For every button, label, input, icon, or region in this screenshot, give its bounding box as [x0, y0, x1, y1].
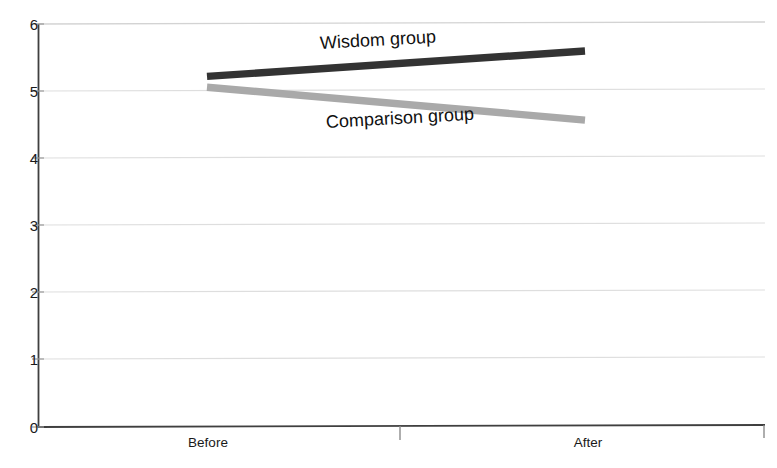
- y-axis-label-5: 5: [14, 84, 38, 99]
- x-axis-line: [38, 425, 765, 427]
- x-axis-label-before: Before: [173, 436, 243, 450]
- y-axis-label-2: 2: [14, 285, 38, 300]
- chart-title-cropped: [196, 0, 596, 2]
- y-axis-label-0: 0: [14, 420, 38, 435]
- line-chart: 6 5 4 3 2 1 0 Before After Wisdom group …: [0, 0, 777, 468]
- y-axis-label-3: 3: [14, 218, 38, 233]
- gridlines: [38, 22, 765, 359]
- y-axis-label-1: 1: [14, 352, 38, 367]
- series-line-wisdom-group: [207, 51, 585, 76]
- chart-canvas: [0, 0, 777, 468]
- x-axis-label-after: After: [553, 436, 623, 450]
- y-axis-label-6: 6: [14, 17, 38, 32]
- y-axis-label-4: 4: [14, 151, 38, 166]
